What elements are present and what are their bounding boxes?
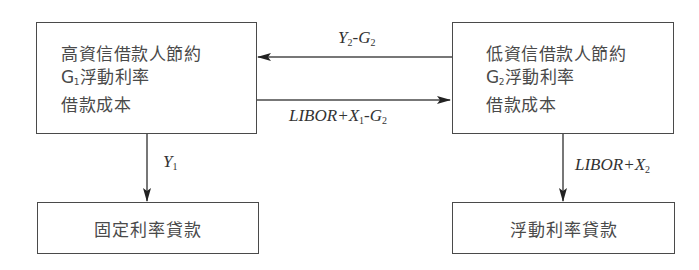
- high-credit-line-2-text: 浮動利率: [80, 67, 150, 87]
- fixed-rate-loan-box: 固定利率貸款: [37, 202, 259, 254]
- label-libor-plus-x1-minus-g2: LIBOR+X1-G2: [289, 106, 387, 126]
- label-sub-1: 1: [172, 161, 177, 172]
- floating-rate-loan-box: 浮動利率貸款: [452, 202, 675, 254]
- label-libor-plus-x2: LIBOR+X2: [575, 155, 650, 175]
- high-credit-line-1: 高資信借款人節約: [61, 43, 201, 66]
- low-credit-line-1: 低資信借款人節約: [486, 43, 626, 66]
- label-y1: Y1: [163, 152, 177, 172]
- label-sub-2: 2: [382, 115, 387, 126]
- low-credit-line-2-text: 浮動利率: [505, 67, 575, 87]
- high-credit-line-2: G1浮動利率: [61, 66, 201, 94]
- g1-symbol: G: [61, 67, 75, 87]
- label-sub-2b: 2: [370, 37, 375, 48]
- label-part-libor-x: LIBOR+X: [289, 106, 359, 125]
- label-y2-minus-g2: Y2-G2: [338, 28, 375, 48]
- g2-symbol: G: [486, 67, 500, 87]
- high-credit-line-3: 借款成本: [61, 94, 201, 117]
- floating-rate-loan-label: 浮動利率貸款: [453, 216, 674, 241]
- label-sub-2: 2: [645, 164, 650, 175]
- low-credit-line-3: 借款成本: [486, 94, 626, 117]
- high-credit-borrower-text: 高資信借款人節約 G1浮動利率 借款成本: [61, 43, 201, 117]
- label-part-g: -G: [352, 28, 370, 47]
- fixed-rate-loan-label: 固定利率貸款: [38, 216, 258, 241]
- low-credit-line-2: G2浮動利率: [486, 66, 626, 94]
- label-part-g: -G: [364, 106, 382, 125]
- low-credit-borrower-box: 低資信借款人節約 G2浮動利率 借款成本: [452, 22, 674, 134]
- low-credit-borrower-text: 低資信借款人節約 G2浮動利率 借款成本: [486, 43, 626, 117]
- high-credit-borrower-box: 高資信借款人節約 G1浮動利率 借款成本: [36, 22, 257, 134]
- label-part-libor-x: LIBOR+X: [575, 155, 645, 174]
